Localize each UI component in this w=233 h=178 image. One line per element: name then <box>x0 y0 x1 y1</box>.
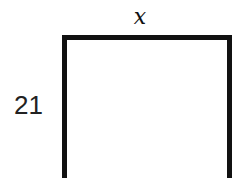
rectangle-shape <box>62 35 232 178</box>
left-side-label: 21 <box>14 90 43 120</box>
top-side-label: x <box>128 4 152 30</box>
